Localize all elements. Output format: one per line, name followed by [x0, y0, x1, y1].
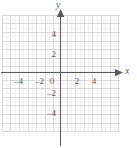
- x-tick-label-zero: 0: [47, 76, 57, 86]
- coordinate-grid-svg: [0, 0, 137, 148]
- x-tick-label-pos2: 2: [72, 76, 82, 86]
- y-tick-label-neg2: –2: [41, 88, 56, 98]
- y-axis-arrowhead: [57, 9, 64, 17]
- x-tick-label-neg2: –2: [32, 76, 47, 86]
- x-axis-label: x: [125, 66, 129, 76]
- x-tick-label-pos4: 4: [89, 76, 99, 86]
- y-axis-label: y: [56, 0, 60, 10]
- coordinate-plane-figure: –4 –2 0 2 4 4 2 –2 –4 x y: [0, 0, 137, 148]
- x-tick-label-neg4: –4: [11, 76, 26, 86]
- y-tick-label-pos4: 4: [45, 29, 56, 39]
- y-tick-label-pos2: 2: [45, 49, 56, 59]
- y-tick-label-neg4: –4: [41, 108, 56, 118]
